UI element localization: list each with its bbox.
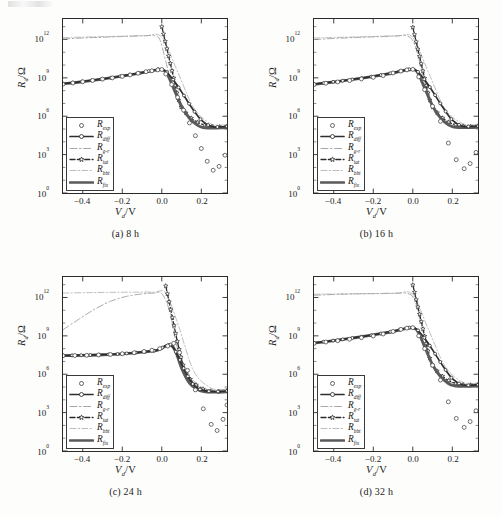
legend-swatch-dash-dot-light — [320, 143, 345, 154]
legend-item-tat: Rtat — [320, 412, 361, 423]
y-tick-label: 109 — [288, 73, 300, 83]
series-r-tat — [164, 284, 227, 394]
legend-item-exp: Rexp — [320, 378, 361, 389]
x-axis-label: Vd/V — [251, 464, 502, 477]
legend-item-fix: Rfix — [69, 177, 110, 188]
legend-item-g-r: Rg-r — [320, 142, 361, 153]
legend-item-diff: Rdiff — [320, 131, 361, 142]
legend-swatch-dash-dot-faint — [320, 165, 345, 176]
y-axis-label: Rd/Ω — [267, 325, 280, 346]
legend-swatch-line-marker-circle — [69, 389, 94, 400]
legend-item-diff: Rdiff — [69, 131, 110, 142]
legend-swatch-line-marker-circle — [320, 131, 345, 142]
legend-label: Rbbt — [97, 423, 110, 434]
x-axis-label: Vd/V — [251, 206, 502, 219]
panel-caption-b: (b) 16 h — [251, 228, 502, 239]
y-tick-label: 100 — [288, 189, 300, 199]
panel-d: RexpRdiffRg-rRtatRbbtRfix101210910610310… — [251, 258, 502, 516]
y-tick-label: 106 — [37, 111, 49, 121]
x-tick-label: 0.0 — [407, 196, 418, 206]
legend-label: Rfix — [348, 177, 359, 188]
legend-swatch-line-marker-star — [69, 154, 94, 165]
legend-label: Rdiff — [97, 131, 110, 142]
y-tick-label: 1012 — [34, 34, 49, 44]
y-tick-label: 106 — [288, 111, 300, 121]
x-axis-label: Vd/V — [0, 464, 251, 477]
y-tick-label: 103 — [37, 408, 49, 418]
legend: RexpRdiffRg-rRtatRbbtRfix — [317, 117, 365, 191]
y-axis-label: Rd/Ω — [267, 67, 280, 88]
legend-swatch-line-marker-circle — [69, 131, 94, 142]
legend-swatch-thick-solid — [320, 177, 345, 188]
plot-area-a: RexpRdiffRg-rRtatRbbtRfix — [62, 18, 228, 194]
panel-caption-c: (c) 24 h — [0, 486, 251, 497]
plot-area-b: RexpRdiffRg-rRtatRbbtRfix — [313, 18, 479, 194]
y-axis-ticks: 1012109106103100 — [0, 258, 58, 516]
legend-item-tat: Rtat — [69, 412, 110, 423]
legend-swatch-thick-solid — [69, 435, 94, 446]
legend-item-exp: Rexp — [69, 120, 110, 131]
legend-item-fix: Rfix — [69, 435, 110, 446]
legend-label: Rfix — [97, 435, 108, 446]
y-axis-ticks: 1012109106103100 — [251, 258, 309, 516]
x-tick-label: −0.4 — [74, 196, 90, 206]
x-tick-label: −0.4 — [325, 454, 341, 464]
legend-swatch-line-marker-star — [69, 412, 94, 423]
plot-area-c: RexpRdiffRg-rRtatRbbtRfix — [62, 276, 228, 452]
legend-label: Rbbt — [97, 165, 110, 176]
legend-label: Rdiff — [348, 389, 361, 400]
x-tick-label: −0.2 — [114, 454, 130, 464]
plot-frame: RexpRdiffRg-rRtatRbbtRfix — [62, 276, 228, 452]
series-r-bbt — [314, 292, 478, 384]
legend-item-exp: Rexp — [320, 120, 361, 131]
legend-item-bbt: Rbbt — [320, 423, 361, 434]
x-tick-label: 0.2 — [447, 454, 458, 464]
x-tick-label: −0.4 — [325, 196, 341, 206]
legend-item-fix: Rfix — [320, 177, 361, 188]
legend-swatch-dash-dot-light — [320, 401, 345, 412]
legend-item-bbt: Rbbt — [69, 165, 110, 176]
legend-label: Rdiff — [348, 131, 361, 142]
legend-item-diff: Rdiff — [320, 389, 361, 400]
plot-frame: RexpRdiffRg-rRtatRbbtRfix — [313, 276, 479, 452]
legend-item-exp: Rexp — [69, 378, 110, 389]
y-tick-label: 100 — [37, 447, 49, 457]
y-tick-label: 1012 — [34, 292, 49, 302]
series-r-bbt — [314, 34, 478, 125]
legend-item-diff: Rdiff — [69, 389, 110, 400]
legend: RexpRdiffRg-rRtatRbbtRfix — [66, 375, 114, 449]
panel-caption-a: (a) 8 h — [0, 228, 251, 239]
legend-swatch-dash-dot-faint — [69, 165, 94, 176]
legend-swatch-dash-dot-faint — [320, 423, 345, 434]
legend-item-fix: Rfix — [320, 435, 361, 446]
y-tick-label: 103 — [288, 150, 300, 160]
y-tick-label: 109 — [37, 331, 49, 341]
legend-swatch-line-marker-star — [320, 412, 345, 423]
y-tick-label: 109 — [37, 73, 49, 83]
legend-swatch-thick-solid — [69, 177, 94, 188]
legend-swatch-marker-circle — [320, 378, 345, 389]
legend: RexpRdiffRg-rRtatRbbtRfix — [66, 117, 114, 191]
x-tick-label: −0.2 — [365, 454, 381, 464]
legend-label: Rfix — [97, 177, 108, 188]
legend-item-tat: Rtat — [69, 154, 110, 165]
x-tick-label: 0.0 — [156, 454, 167, 464]
x-tick-label: 0.0 — [407, 454, 418, 464]
x-tick-label: −0.2 — [114, 196, 130, 206]
y-axis-ticks: 1012109106103100 — [0, 0, 58, 258]
legend-swatch-marker-circle — [320, 120, 345, 131]
legend-swatch-dash-dot-light — [69, 143, 94, 154]
legend-item-tat: Rtat — [320, 154, 361, 165]
panel-a: RexpRdiffRg-rRtatRbbtRfix101210910610310… — [0, 0, 251, 258]
legend-swatch-marker-circle — [69, 378, 94, 389]
legend-item-g-r: Rg-r — [69, 142, 110, 153]
legend-item-bbt: Rbbt — [320, 165, 361, 176]
y-tick-label: 100 — [288, 447, 300, 457]
x-tick-label: 0.2 — [447, 196, 458, 206]
legend-swatch-dash-dot-light — [69, 401, 94, 412]
legend-swatch-line-marker-circle — [320, 389, 345, 400]
legend-item-bbt: Rbbt — [69, 423, 110, 434]
x-tick-label: −0.2 — [365, 196, 381, 206]
y-tick-label: 106 — [288, 369, 300, 379]
legend-label: Rfix — [348, 435, 359, 446]
